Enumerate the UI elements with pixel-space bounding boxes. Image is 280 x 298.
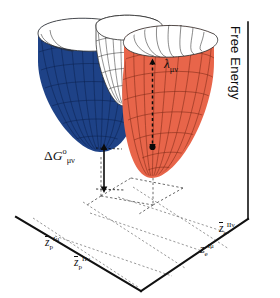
lambda-annotation-label: λμν [164,57,178,74]
free-energy-surface-figure: Free Energy λμν ΔGoμν zpIμ zpIIν zeIIν z… [0,0,280,298]
floor-edge-front-left [16,217,141,291]
floor-grid [33,187,231,287]
product-paraboloid-orange [122,24,218,178]
axis-label-zp-Imu: zpIμ [45,236,59,251]
axis-label-zp-IInu: zpIIν [74,256,90,271]
axis-label-ze-Imu: zeIμ [200,243,214,258]
axis-label-ze-IInu: zeIIν [219,222,235,237]
delta-g-annotation-label: ΔGoμν [44,148,75,166]
free-energy-axis-label: Free Energy [229,26,242,100]
